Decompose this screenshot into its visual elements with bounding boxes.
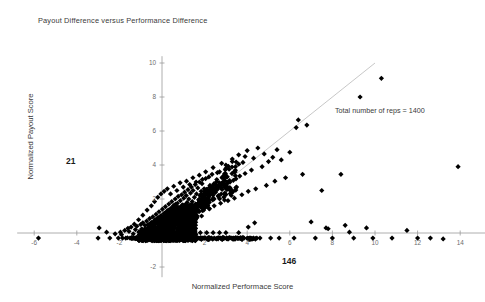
data-point xyxy=(304,122,309,127)
x-tick-label: 14 xyxy=(457,239,465,246)
data-point xyxy=(174,188,179,193)
data-point xyxy=(97,225,102,230)
data-point xyxy=(149,203,154,208)
data-point xyxy=(266,159,271,164)
data-point xyxy=(211,165,216,170)
data-point xyxy=(272,179,277,184)
data-point xyxy=(274,147,279,152)
data-point xyxy=(296,117,301,122)
y-tick-label: 10 xyxy=(149,59,157,66)
data-point xyxy=(181,185,186,190)
data-point xyxy=(264,183,269,188)
data-point xyxy=(428,236,433,241)
data-point xyxy=(262,151,267,156)
data-point xyxy=(223,230,228,235)
x-tick-label: 2 xyxy=(203,239,207,246)
data-point xyxy=(236,152,241,157)
data-point xyxy=(184,179,189,184)
data-point xyxy=(389,236,394,241)
data-point xyxy=(217,230,222,235)
y-tick-label: 4 xyxy=(152,161,156,168)
x-tick-label: 6 xyxy=(288,239,292,246)
x-tick-label: 4 xyxy=(245,239,249,246)
data-point xyxy=(239,192,244,197)
scatter-chart: Payout Difference versus Performance Dif… xyxy=(0,0,485,302)
data-point xyxy=(379,76,384,81)
data-point xyxy=(113,231,118,236)
data-point xyxy=(404,228,409,233)
data-point xyxy=(319,188,324,193)
data-point xyxy=(287,150,292,155)
data-point xyxy=(270,155,275,160)
data-point xyxy=(246,189,251,194)
data-point xyxy=(253,186,258,191)
data-point xyxy=(203,169,208,174)
data-point xyxy=(107,236,112,241)
data-point xyxy=(140,213,145,218)
data-point xyxy=(351,236,356,241)
x-tick-label: 12 xyxy=(414,239,422,246)
data-point xyxy=(249,168,254,173)
data-point xyxy=(260,164,265,169)
x-tick-label: -4 xyxy=(74,239,80,246)
data-point xyxy=(357,94,362,99)
x-tick-label: 8 xyxy=(331,239,335,246)
data-point xyxy=(279,157,284,162)
y-tick-label: 2 xyxy=(152,195,156,202)
data-point xyxy=(96,236,101,241)
data-point xyxy=(178,180,183,185)
data-point xyxy=(338,172,343,177)
data-point xyxy=(313,236,318,241)
y-tick-label: 8 xyxy=(152,93,156,100)
y-tick-label: -2 xyxy=(150,263,156,270)
data-point xyxy=(136,217,141,222)
data-point xyxy=(171,184,176,189)
data-point xyxy=(441,236,446,241)
data-point xyxy=(168,191,173,196)
data-point xyxy=(218,201,223,206)
data-point xyxy=(309,219,314,224)
data-point xyxy=(104,230,109,235)
data-point xyxy=(251,156,256,161)
x-tick-label: 10 xyxy=(371,239,379,246)
data-point xyxy=(242,154,247,159)
data-point xyxy=(211,230,216,235)
data-point xyxy=(246,224,251,229)
data-point xyxy=(237,173,242,178)
data-point xyxy=(277,236,282,241)
data-point xyxy=(343,223,348,228)
data-point xyxy=(268,236,273,241)
data-point xyxy=(190,175,195,180)
data-point xyxy=(144,207,149,212)
data-point xyxy=(294,125,299,130)
data-point xyxy=(242,171,247,176)
data-point xyxy=(212,203,217,208)
data-point xyxy=(245,148,250,153)
data-points-layer xyxy=(36,76,461,244)
data-point xyxy=(300,172,305,177)
data-point xyxy=(283,175,288,180)
data-point xyxy=(197,173,202,178)
data-point xyxy=(199,213,204,218)
data-point xyxy=(236,230,241,235)
data-point xyxy=(364,225,369,230)
data-point xyxy=(252,220,257,225)
data-point xyxy=(198,230,203,235)
data-point xyxy=(455,164,460,169)
x-tick-label: -6 xyxy=(31,239,37,246)
y-tick-label: 6 xyxy=(152,127,156,134)
data-point xyxy=(255,145,260,150)
plot-area: -6-4-22468101214-2246810 xyxy=(0,0,485,302)
x-tick-label: -2 xyxy=(117,239,123,246)
data-point xyxy=(291,236,296,241)
data-point xyxy=(347,230,352,235)
